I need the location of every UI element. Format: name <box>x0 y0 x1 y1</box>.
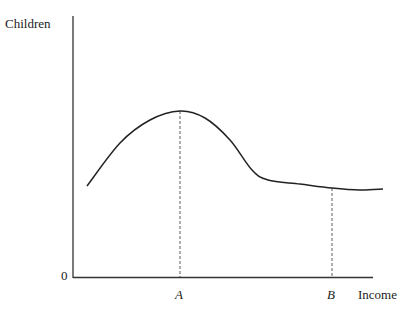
children-income-curve <box>87 111 383 190</box>
marker-b-label: B <box>327 287 335 303</box>
y-axis-label: Children <box>5 16 51 32</box>
origin-label: 0 <box>61 268 68 284</box>
marker-a-label: A <box>175 287 183 303</box>
chart-canvas <box>0 0 417 309</box>
x-axis-label: Income <box>358 287 397 303</box>
